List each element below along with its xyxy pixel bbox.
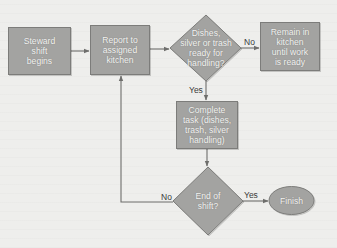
flowchart-canvas: Steward shift begins Report to assigned …	[0, 0, 337, 248]
node-report-shape	[91, 26, 150, 75]
node-end-decision-shape	[173, 167, 243, 235]
node-ready-decision-shape	[170, 15, 241, 81]
edge-label-end-yes: Yes	[244, 190, 258, 200]
edge-label-ready-no: No	[244, 37, 255, 47]
edge-end-decision-no-to-report	[121, 76, 173, 202]
node-complete-shape	[177, 102, 238, 149]
edge-label-end-no: No	[161, 192, 172, 202]
node-remain-shape	[261, 23, 320, 71]
node-start-shape	[9, 28, 71, 75]
node-finish-shape	[269, 187, 314, 215]
flowchart-shapes	[0, 0, 337, 248]
edge-label-ready-yes: Yes	[189, 85, 203, 95]
